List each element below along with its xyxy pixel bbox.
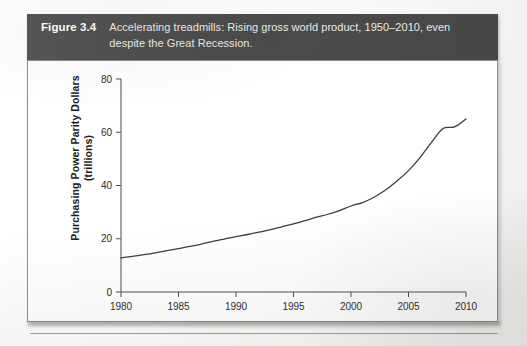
y-axis-title-line-2: (trillions) [82, 58, 95, 258]
figure-caption-bar: Figure 3.4 Accelerating treadmills: Risi… [27, 14, 498, 60]
y-axis-title-line-1: Purchasing Power Parity Dollars [69, 75, 81, 240]
y-axis-title: Purchasing Power Parity Dollars (trillio… [69, 58, 95, 258]
caption-line-1: Accelerating treadmills: Rising gross wo… [109, 21, 450, 33]
x-tick-label: 2010 [455, 301, 478, 312]
y-tick-label: 20 [101, 233, 113, 244]
y-axis-ticks: 020406080 [101, 74, 121, 298]
data-series-line [121, 119, 466, 258]
caption-line-2: despite the Great Recession. [109, 37, 252, 49]
y-tick-label: 60 [101, 127, 113, 138]
plot-area: Purchasing Power Parity Dollars (trillio… [28, 61, 497, 321]
figure-number-label: Figure 3.4 [41, 20, 96, 33]
line-chart-svg: 020406080 1980198519901995200020052010 [28, 61, 499, 323]
y-tick-label: 0 [106, 287, 112, 298]
y-tick-label: 40 [101, 180, 113, 191]
x-tick-label: 1980 [110, 301, 133, 312]
x-tick-label: 1995 [282, 301, 305, 312]
figure-caption-text: Accelerating treadmills: Rising gross wo… [109, 20, 484, 51]
footer-rule [30, 333, 498, 334]
x-axis-ticks: 1980198519901995200020052010 [110, 292, 478, 312]
chart-frame: Purchasing Power Parity Dollars (trillio… [27, 60, 498, 322]
x-tick-label: 1985 [167, 301, 190, 312]
x-tick-label: 2000 [340, 301, 363, 312]
page-shadow [27, 322, 501, 329]
x-tick-label: 1990 [225, 301, 248, 312]
x-tick-label: 2005 [397, 301, 420, 312]
y-tick-label: 80 [101, 74, 113, 85]
